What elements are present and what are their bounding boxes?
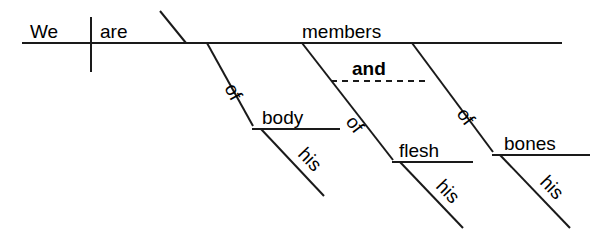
word-object-bones: bones <box>504 133 556 154</box>
word-verb-are: are <box>100 21 127 42</box>
word-modifier-his-2: his <box>432 175 464 207</box>
preposition-slant-3 <box>412 43 493 152</box>
word-preposition-of-3: of <box>453 104 480 130</box>
word-object-body: body <box>262 107 304 128</box>
word-preposition-of-1: of <box>221 80 247 105</box>
word-object-flesh: flesh <box>399 140 439 161</box>
sentence-diagram-svg: We are members and of of of body flesh b… <box>0 0 603 238</box>
predicate-nominative-slant <box>160 11 186 43</box>
word-predicate-nominative-members: members <box>302 21 381 42</box>
sentence-diagram-canvas: We are members and of of of body flesh b… <box>0 0 603 238</box>
word-preposition-of-2: of <box>342 112 369 138</box>
word-conjunction-and: and <box>352 58 386 79</box>
word-subject-we: We <box>30 21 58 42</box>
